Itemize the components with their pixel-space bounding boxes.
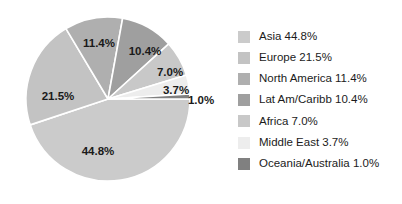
legend-color-swatch [238, 115, 250, 127]
legend-color-swatch [238, 158, 250, 170]
pie-svg: 44.8%21.5%11.4%10.4%7.0%3.7%1.0% [0, 0, 215, 204]
legend-item-label: Oceania/Australia 1.0% [259, 158, 379, 170]
legend-color-swatch [238, 94, 250, 106]
legend-item-label: Middle East 3.7% [259, 137, 349, 149]
legend-item[interactable]: Asia 44.8% [238, 26, 402, 47]
legend-item[interactable]: North America 11.4% [238, 68, 402, 89]
pie-slice-label: 21.5% [42, 90, 75, 102]
legend-color-swatch [238, 137, 250, 149]
legend-item[interactable]: Africa 7.0% [238, 111, 402, 132]
pie-slice-label: 10.4% [129, 45, 162, 57]
legend-item-label: North America 11.4% [259, 73, 367, 85]
chart-legend: Asia 44.8%Europe 21.5%North America 11.4… [238, 26, 402, 174]
legend-color-swatch [238, 52, 250, 64]
pie-plot-area: 44.8%21.5%11.4%10.4%7.0%3.7%1.0% [0, 0, 215, 204]
pie-chart-figure: 44.8%21.5%11.4%10.4%7.0%3.7%1.0% Asia 44… [0, 0, 402, 204]
legend-item[interactable]: Lat Am/Caribb 10.4% [238, 90, 402, 111]
pie-slice-label: 44.8% [82, 145, 115, 157]
pie-slice-label: 3.7% [163, 84, 189, 96]
pie-slice-label: 11.4% [83, 37, 115, 49]
legend-item[interactable]: Oceania/Australia 1.0% [238, 153, 402, 174]
legend-item[interactable]: Middle East 3.7% [238, 132, 402, 153]
legend-color-swatch [238, 73, 250, 85]
legend-item-label: Europe 21.5% [259, 52, 332, 64]
legend-color-swatch [238, 31, 250, 43]
legend-item-label: Asia 44.8% [259, 31, 317, 43]
pie-slice-label: 1.0% [188, 94, 214, 106]
legend-item-label: Africa 7.0% [259, 116, 318, 128]
legend-item-label: Lat Am/Caribb 10.4% [259, 94, 368, 106]
pie-slice-label: 7.0% [157, 66, 183, 78]
legend-item[interactable]: Europe 21.5% [238, 47, 402, 68]
